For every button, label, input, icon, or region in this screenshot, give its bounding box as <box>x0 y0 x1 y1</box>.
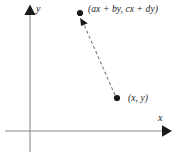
image-point-dot <box>77 10 83 16</box>
transformation-arrowhead <box>78 16 88 26</box>
x-axis-label: x <box>158 113 162 123</box>
figure-canvas <box>0 0 181 156</box>
y-axis-label: y <box>36 4 40 14</box>
linear-transformation-figure: (ax + by, cx + dy) (x, y) y x <box>0 0 181 156</box>
source-point-label: (x, y) <box>128 94 148 104</box>
source-point-dot <box>114 95 120 101</box>
x-axis-arrowhead <box>162 125 172 137</box>
image-point-label: (ax + by, cx + dy) <box>88 5 158 15</box>
transformation-dashed-line <box>84 24 116 96</box>
y-axis-arrowhead <box>24 5 35 16</box>
